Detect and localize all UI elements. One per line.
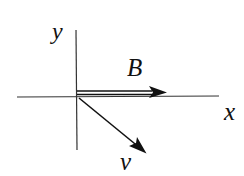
vector-v-arrowhead bbox=[129, 137, 147, 154]
x-axis-label: x bbox=[223, 98, 235, 125]
vector-v-label: v bbox=[120, 148, 132, 175]
vector-b-label: B bbox=[127, 54, 142, 81]
vector-v-arrow bbox=[79, 98, 147, 154]
y-axis-label: y bbox=[50, 18, 63, 44]
vector-diagram: y B x v bbox=[0, 0, 244, 176]
y-axis bbox=[76, 30, 77, 150]
x-axis bbox=[17, 96, 219, 97]
